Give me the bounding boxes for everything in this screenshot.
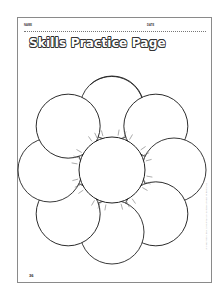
copyright-credit: Mini-Workbook: Daily Skills Practice • S… xyxy=(205,183,207,250)
page-number: 36 xyxy=(29,273,33,278)
petal-group xyxy=(18,76,206,264)
flower-outline-graphic xyxy=(0,0,224,305)
